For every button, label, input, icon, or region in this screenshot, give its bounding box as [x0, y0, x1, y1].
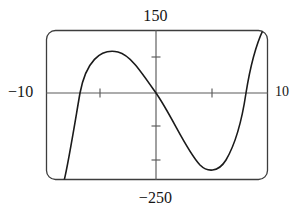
x-max-label: 10: [275, 85, 289, 99]
graph-figure: 150 −250 −10 10: [0, 0, 301, 215]
plot-canvas: [0, 0, 301, 215]
y-max-label: 150: [5, 8, 301, 24]
cubic-curve: [64, 28, 264, 181]
y-min-label: −250: [5, 190, 301, 206]
x-min-label: −10: [8, 84, 33, 100]
plot-frame: [47, 31, 268, 180]
